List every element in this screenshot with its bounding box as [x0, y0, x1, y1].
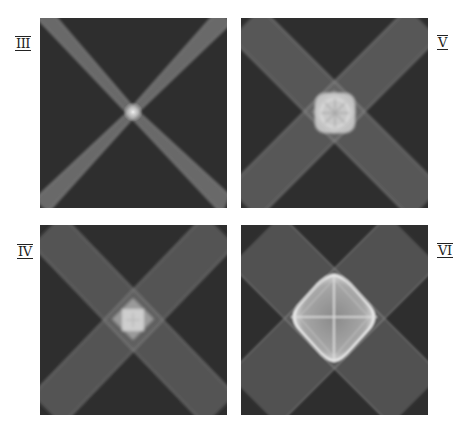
diffraction-pattern-iii: [40, 18, 227, 208]
diffraction-pattern-vi: [241, 225, 428, 415]
panel-label-vi: VI: [437, 243, 453, 258]
panel-v: [241, 18, 428, 208]
panel-label-v: V: [437, 35, 448, 50]
panel-label-iii: III: [15, 36, 31, 51]
panel-vi: [241, 225, 428, 415]
diffraction-pattern-iv: [40, 225, 227, 415]
panel-iii: [40, 18, 227, 208]
panel-iv: [40, 225, 227, 415]
diffraction-pattern-v: [241, 18, 428, 208]
panel-label-iv: IV: [17, 244, 33, 259]
